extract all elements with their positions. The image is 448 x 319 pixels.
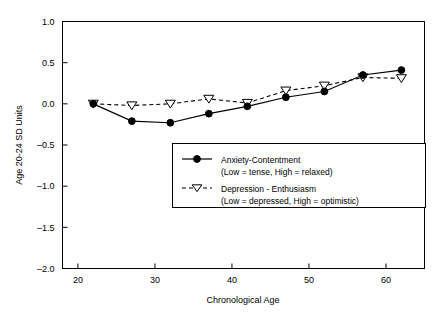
legend-marker-filled-circle-icon bbox=[194, 156, 201, 163]
y-tick-label: –2.0 bbox=[37, 264, 55, 274]
legend-sublabel-anxiety: (Low = tense, High = relaxed) bbox=[221, 167, 333, 177]
y-tick-label: 0.0 bbox=[42, 99, 55, 109]
y-tick-label: 1.0 bbox=[42, 17, 55, 27]
line-chart: 1.00.50.0–0.5–1.0–1.5–2.0 2030405060 Chr… bbox=[0, 0, 448, 319]
legend-sublabel-depression: (Low = depressed, High = optimistic) bbox=[221, 196, 359, 206]
y-tick-label: –1.0 bbox=[37, 181, 55, 191]
y-tick-label: –1.5 bbox=[37, 223, 55, 233]
x-axis-ticks bbox=[78, 264, 386, 269]
y-axis-title: Age 20-24 SD Units bbox=[14, 105, 24, 185]
data-point-marker bbox=[359, 72, 366, 79]
data-point-marker bbox=[167, 119, 174, 126]
x-tick-label: 60 bbox=[381, 275, 391, 285]
x-tick-label: 40 bbox=[227, 275, 237, 285]
data-point-marker bbox=[128, 118, 135, 125]
chart-figure: 1.00.50.0–0.5–1.0–1.5–2.0 2030405060 Chr… bbox=[0, 0, 448, 319]
data-point-marker bbox=[398, 67, 405, 74]
data-point-marker bbox=[90, 100, 97, 107]
y-tick-label: –0.5 bbox=[37, 140, 55, 150]
series-line-0 bbox=[93, 70, 401, 123]
x-axis-tick-labels: 2030405060 bbox=[73, 275, 391, 285]
x-tick-label: 20 bbox=[73, 275, 83, 285]
data-point-marker bbox=[321, 88, 328, 95]
y-axis-tick-labels: 1.00.50.0–0.5–1.0–1.5–2.0 bbox=[37, 17, 55, 274]
x-tick-label: 30 bbox=[150, 275, 160, 285]
data-point-marker bbox=[244, 103, 251, 110]
series-anxiety-contentment bbox=[90, 67, 405, 126]
y-axis-ticks bbox=[63, 22, 68, 269]
y-tick-label: 0.5 bbox=[42, 58, 55, 68]
x-tick-label: 50 bbox=[304, 275, 314, 285]
legend-label-depression: Depression - Enthusiasm bbox=[221, 184, 316, 194]
data-point-marker bbox=[282, 94, 289, 101]
x-axis-title: Chronological Age bbox=[206, 295, 279, 305]
data-point-marker bbox=[205, 110, 212, 117]
chart-legend: Anxiety-Contentment (Low = tense, High =… bbox=[173, 144, 426, 208]
legend-label-anxiety: Anxiety-Contentment bbox=[221, 155, 301, 165]
